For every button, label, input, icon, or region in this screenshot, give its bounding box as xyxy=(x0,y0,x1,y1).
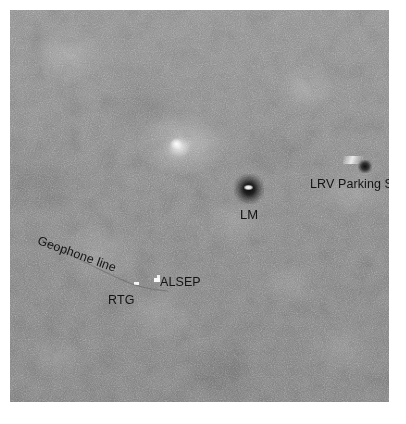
lunar-surface-photo: LM LRV Parking Spot ALSEP RTG Geophone l… xyxy=(10,10,389,402)
annotation-label-lm: LM xyxy=(240,208,258,221)
surface-mottle-texture xyxy=(10,10,389,402)
annotation-label-rtg: RTG xyxy=(108,294,134,307)
annotation-label-alsep: ALSEP xyxy=(160,276,201,289)
screenshot-root: LM LRV Parking Spot ALSEP RTG Geophone l… xyxy=(0,0,406,424)
annotation-label-lrv-parking-spot: LRV Parking Spot xyxy=(310,178,389,191)
